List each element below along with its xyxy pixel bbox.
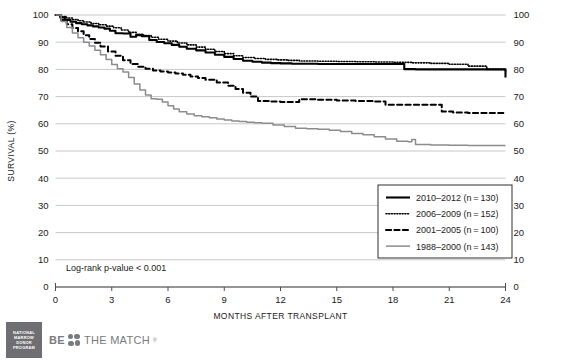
- y-tick-label-right: 40: [514, 173, 525, 184]
- y-tick-label-right: 0: [514, 281, 519, 292]
- x-tick-label: 9: [222, 294, 227, 305]
- x-tick-label: 18: [388, 294, 399, 305]
- be-the-match-text: THE MATCH: [84, 334, 150, 346]
- y-axis-title: SURVIVAL (%): [6, 120, 16, 181]
- legend-label-4: 1988–2000 (n = 143): [416, 242, 498, 252]
- nmdp-logo: NATIONAL MARROW DONOR PROGRAM: [6, 322, 42, 358]
- x-tick-label: 12: [275, 294, 286, 305]
- be-the-match-logo: BE THE MATCH ®: [49, 334, 157, 347]
- y-tick-label-right: 80: [514, 64, 525, 75]
- y-tick-label-right: 70: [514, 91, 525, 102]
- trademark-symbol: ®: [153, 337, 157, 343]
- y-tick-label-right: 100: [514, 9, 530, 20]
- series-line-4: [56, 15, 506, 146]
- y-tick-label-left: 30: [38, 200, 49, 211]
- x-tick-label: 3: [109, 294, 114, 305]
- brand-footer: NATIONAL MARROW DONOR PROGRAM BE THE MAT…: [6, 321, 157, 359]
- legend-label-2: 2006–2009 (n = 152): [416, 209, 498, 219]
- legend-label-1: 2010–2012 (n = 130): [416, 193, 498, 203]
- x-tick-label: 6: [165, 294, 170, 305]
- be-the-match-be-text: BE: [49, 334, 65, 346]
- y-tick-label-left: 80: [38, 64, 49, 75]
- x-tick-label: 24: [500, 294, 511, 305]
- x-tick-label: 0: [53, 294, 58, 305]
- legend-label-3: 2001–2005 (n = 100): [416, 225, 498, 235]
- x-tick-label: 21: [444, 294, 455, 305]
- y-tick-label-right: 90: [514, 37, 525, 48]
- y-tick-label-left: 60: [38, 118, 49, 129]
- x-tick-label: 15: [331, 294, 342, 305]
- y-tick-label-right: 10: [514, 254, 525, 265]
- y-tick-label-left: 0: [43, 281, 48, 292]
- y-tick-label-left: 70: [38, 91, 49, 102]
- y-tick-label-left: 50: [38, 145, 49, 156]
- x-axis-title: MONTHS AFTER TRANSPLANT: [213, 311, 347, 321]
- y-tick-label-left: 90: [38, 37, 49, 48]
- chart-plot-area: 0010102020303040405050606070708080909010…: [0, 0, 561, 364]
- y-tick-label-left: 100: [33, 9, 49, 20]
- y-tick-label-right: 60: [514, 118, 525, 129]
- y-tick-label-left: 40: [38, 173, 49, 184]
- y-tick-label-right: 30: [514, 200, 525, 211]
- four-dots-icon: [68, 334, 81, 347]
- log-rank-pvalue-annotation: Log-rank p-value < 0.001: [66, 263, 166, 273]
- y-tick-label-left: 10: [38, 254, 49, 265]
- y-tick-label-right: 20: [514, 227, 525, 238]
- y-tick-label-right: 50: [514, 145, 525, 156]
- nmdp-logo-line-4: PROGRAM: [13, 345, 35, 350]
- survival-chart: 0010102020303040405050606070708080909010…: [0, 0, 561, 364]
- y-tick-label-left: 20: [38, 227, 49, 238]
